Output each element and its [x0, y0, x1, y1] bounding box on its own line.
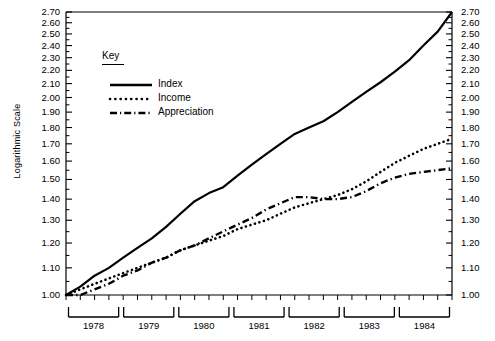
legend-title: Key	[102, 50, 119, 61]
legend-swatch-dash-dot	[110, 111, 152, 115]
legend-label: Appreciation	[158, 106, 214, 118]
axis-frame	[66, 12, 452, 295]
legend-swatch-solid	[110, 83, 152, 87]
series-line-appreciation	[66, 168, 452, 295]
legend-label: Income	[158, 92, 191, 104]
series-line-index	[66, 12, 452, 295]
year-brackets	[69, 307, 450, 317]
legend-swatch-dotted	[110, 97, 152, 101]
y-axis-ticks	[66, 12, 452, 295]
logarithmic-index-chart: Logarithmic Scale 1.001.101.201.301.401.…	[0, 0, 495, 341]
x-axis-ticks	[66, 295, 452, 300]
series-line-income	[66, 139, 452, 295]
legend-title-underline	[102, 64, 124, 65]
legend-label: Index	[158, 78, 182, 90]
plot-area	[0, 0, 495, 341]
